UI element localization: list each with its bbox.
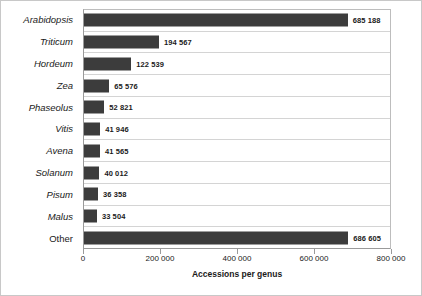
bar-row: 686 605 bbox=[84, 227, 390, 248]
category-label: Solanum bbox=[1, 162, 79, 184]
bar-row: 52 821 bbox=[84, 97, 390, 119]
bar-value-label: 65 576 bbox=[114, 81, 138, 90]
x-axis-tick-label: 200 000 bbox=[146, 254, 175, 263]
bar-value-label: 686 605 bbox=[353, 233, 381, 242]
bar-value-label: 36 358 bbox=[103, 190, 127, 199]
bar-row: 36 358 bbox=[84, 184, 390, 206]
category-axis-labels: ArabidopsisTriticumHordeumZeaPhaseolusVi… bbox=[1, 9, 79, 249]
category-label: Pisum bbox=[1, 184, 79, 206]
bar-chart-figure: ArabidopsisTriticumHordeumZeaPhaseolusVi… bbox=[0, 0, 422, 296]
bar-row: 40 012 bbox=[84, 162, 390, 184]
bar bbox=[84, 209, 97, 222]
x-axis-tick-labels: 0200 000400 000600 000800 000 bbox=[83, 254, 391, 268]
x-axis-title: Accessions per genus bbox=[83, 269, 391, 279]
category-label: Triticum bbox=[1, 31, 79, 53]
category-label: Hordeum bbox=[1, 53, 79, 75]
category-label: Arabidopsis bbox=[1, 9, 79, 31]
bar-row: 194 567 bbox=[84, 32, 390, 54]
bar-row: 33 504 bbox=[84, 206, 390, 228]
x-axis-tick-label: 400 000 bbox=[223, 254, 252, 263]
bar-value-label: 122 539 bbox=[136, 59, 164, 68]
bar-value-label: 41 946 bbox=[105, 125, 129, 134]
bar bbox=[84, 188, 98, 201]
x-axis-tick-label: 0 bbox=[81, 254, 85, 263]
bar-value-label: 685 188 bbox=[353, 16, 381, 25]
category-label: Avena bbox=[1, 140, 79, 162]
bar bbox=[84, 231, 348, 244]
bar-row: 685 188 bbox=[84, 10, 390, 32]
x-axis-tick-label: 600 000 bbox=[300, 254, 329, 263]
bar bbox=[84, 14, 348, 27]
bar bbox=[84, 123, 100, 136]
bar bbox=[84, 166, 99, 179]
bar bbox=[84, 57, 131, 70]
plot-area: 685 188194 567122 53965 57652 82141 9464… bbox=[83, 9, 391, 249]
bar bbox=[84, 144, 100, 157]
bar bbox=[84, 101, 104, 114]
bar-value-label: 33 504 bbox=[102, 211, 126, 220]
bar-rows: 685 188194 567122 53965 57652 82141 9464… bbox=[84, 10, 390, 248]
bar bbox=[84, 79, 109, 92]
bar-value-label: 194 567 bbox=[164, 38, 192, 47]
bar-value-label: 52 821 bbox=[109, 103, 133, 112]
bar-row: 41 565 bbox=[84, 140, 390, 162]
category-label: Malus bbox=[1, 205, 79, 227]
bar-row: 41 946 bbox=[84, 119, 390, 141]
bar-value-label: 40 012 bbox=[104, 168, 128, 177]
category-label: Phaseolus bbox=[1, 96, 79, 118]
category-label: Zea bbox=[1, 74, 79, 96]
bar bbox=[84, 36, 159, 49]
bar-value-label: 41 565 bbox=[105, 146, 129, 155]
category-label: Other bbox=[1, 227, 79, 249]
x-axis-tick-label: 800 000 bbox=[377, 254, 406, 263]
bar-row: 122 539 bbox=[84, 53, 390, 75]
bar-row: 65 576 bbox=[84, 75, 390, 97]
category-label: Vitis bbox=[1, 118, 79, 140]
